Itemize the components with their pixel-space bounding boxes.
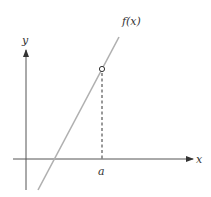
x-axis-label: x bbox=[196, 153, 203, 166]
function-label: f(x) bbox=[121, 15, 141, 28]
function-line bbox=[38, 37, 119, 190]
point-a-label: a bbox=[98, 165, 105, 178]
hole-point bbox=[99, 66, 104, 71]
y-axis-label: y bbox=[21, 34, 29, 47]
diagram-canvas: y x f(x) a bbox=[0, 0, 211, 197]
